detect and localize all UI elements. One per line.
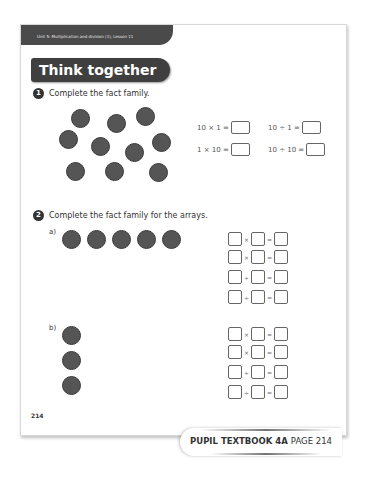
counter [62,351,81,370]
equals-sign: = [265,294,274,301]
equation-text: 10 ÷ 10 = [268,146,304,154]
answer-box[interactable] [228,365,242,379]
fact-row: × = [228,250,288,264]
counter [87,230,106,249]
equals-sign: = [265,274,274,281]
answer-box[interactable] [302,121,321,134]
tab-shadow-top [200,429,332,431]
answer-box[interactable] [274,270,288,284]
section-title: Think together [39,62,156,78]
counter [62,326,81,345]
answer-box[interactable] [228,290,242,304]
tab-shadow-bottom [210,453,322,455]
page-number: 214 [31,412,44,419]
fact-row: × = [228,232,288,246]
answer-box[interactable] [228,250,242,264]
divide-sign: ÷ [242,369,251,376]
part-b-label: b) [49,324,56,332]
answer-box[interactable] [274,365,288,379]
answer-box[interactable] [251,250,265,264]
question-2-number: 2 [33,210,44,221]
fact-row: ÷ = [228,270,288,284]
textbook-page: Unit 5: Multiplication and division (1),… [20,24,347,436]
answer-box[interactable] [274,385,288,399]
divide-sign: ÷ [242,274,251,281]
answer-box[interactable] [251,365,265,379]
answer-box[interactable] [306,143,325,156]
counter [112,230,131,249]
counter [162,230,181,249]
multiply-sign: × [242,349,251,356]
answer-box[interactable] [228,345,242,359]
answer-box[interactable] [228,385,242,399]
divide-sign: ÷ [242,294,251,301]
page-reference-tab: PUPIL TEXTBOOK 4APAGE 214 [180,428,342,456]
answer-box[interactable] [251,327,265,341]
answer-box[interactable] [251,232,265,246]
page-reference: PUPIL TEXTBOOK 4APAGE 214 [190,436,332,446]
fact-row: ÷ = [228,365,288,379]
page-label: PAGE 214 [291,436,332,446]
equation-row: 1 × 10 = [197,143,250,156]
fact-row: ÷ = [228,385,288,399]
equation-text: 10 × 1 = [197,124,229,132]
answer-box[interactable] [274,290,288,304]
question-1-number: 1 [33,88,44,99]
counter [91,137,110,156]
multiply-sign: × [242,331,251,338]
question-2-prompt: Complete the fact family for the arrays. [49,211,208,220]
equation-row: 10 ÷ 10 = [268,143,325,156]
counter [136,107,155,126]
answer-box[interactable] [228,270,242,284]
book-title: PUPIL TEXTBOOK 4A [190,436,288,446]
counter [71,109,90,128]
counter [62,230,81,249]
equals-sign: = [265,236,274,243]
counter [125,143,144,162]
counter [66,162,85,181]
answer-box[interactable] [231,121,250,134]
multiply-sign: × [242,254,251,261]
answer-box[interactable] [274,345,288,359]
answer-box[interactable] [231,143,250,156]
counter [149,163,168,182]
answer-box[interactable] [251,385,265,399]
divide-sign: ÷ [242,389,251,396]
equation-text: 1 × 10 = [197,146,229,154]
part-a-label: a) [49,228,56,236]
fact-row: ÷ = [228,290,288,304]
unit-label: Unit 5: Multiplication and division (1),… [37,34,133,39]
fact-row: × = [228,327,288,341]
equals-sign: = [265,349,274,356]
counter [105,162,124,181]
answer-box[interactable] [274,232,288,246]
counter [59,130,78,149]
answer-box[interactable] [251,345,265,359]
answer-box[interactable] [228,327,242,341]
equals-sign: = [265,369,274,376]
equals-sign: = [265,331,274,338]
unit-header-bar: Unit 5: Multiplication and division (1),… [21,25,173,45]
equals-sign: = [265,254,274,261]
section-title-banner: Think together [31,58,170,82]
counter [107,114,126,133]
equation-row: 10 ÷ 1 = [268,121,321,134]
question-1-prompt: Complete the fact family. [49,89,150,98]
counter [152,133,171,152]
answer-box[interactable] [251,290,265,304]
fact-row: × = [228,345,288,359]
answer-box[interactable] [274,250,288,264]
counter [137,230,156,249]
answer-box[interactable] [251,270,265,284]
equation-row: 10 × 1 = [197,121,250,134]
answer-box[interactable] [228,232,242,246]
answer-box[interactable] [274,327,288,341]
equation-text: 10 ÷ 1 = [268,124,300,132]
equals-sign: = [265,389,274,396]
counter [62,376,81,395]
multiply-sign: × [242,236,251,243]
